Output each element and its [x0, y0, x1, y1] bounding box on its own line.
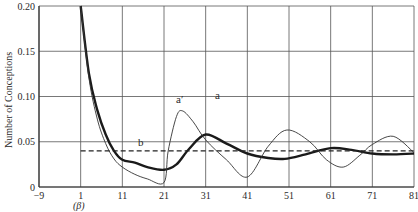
- x-tick-label: 51: [284, 190, 294, 201]
- chart: −91112131415161718100.050.100.150.20 a′ …: [0, 0, 418, 212]
- annotation-a-prime: a′: [176, 93, 183, 105]
- y-tick-label: 0: [30, 182, 35, 193]
- x-tick-label: 21: [159, 190, 169, 201]
- x-axis-note: (β): [73, 200, 85, 212]
- y-axis-label: Number of Conceptions: [3, 52, 14, 148]
- y-tick-label: 0.10: [18, 91, 36, 102]
- x-tick-label: 61: [326, 190, 336, 201]
- x-tick-label: −9: [34, 190, 45, 201]
- annotation-a: a: [215, 89, 220, 101]
- x-tick-label: 71: [367, 190, 377, 201]
- x-tick-label: 31: [201, 190, 211, 201]
- x-tick-label: 11: [118, 190, 128, 201]
- y-tick-label: 0.20: [18, 1, 36, 12]
- x-tick-label: 81: [409, 190, 418, 201]
- y-tick-label: 0.05: [18, 136, 36, 147]
- y-tick-label: 0.15: [18, 46, 36, 57]
- annotation-b: b: [138, 136, 144, 148]
- x-tick-label: 41: [242, 190, 252, 201]
